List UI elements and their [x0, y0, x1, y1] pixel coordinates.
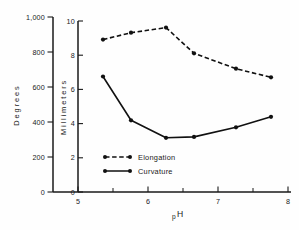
series-elongation: [101, 26, 273, 80]
left-tick-label-800: 800: [32, 48, 45, 57]
legend-marker: [128, 155, 132, 159]
left-axis-degrees: 1,000 800 600 400 200 0 Degrees: [12, 13, 53, 197]
data-point: [164, 136, 168, 140]
inner-axis-millimeters: 10 8 6 4 2 0 Millimeters: [59, 17, 83, 197]
x-axis-ph: 5 6 7 8 p H: [53, 187, 291, 222]
legend-entry-elongation: Elongation: [103, 153, 175, 162]
left-axis-ticks: [48, 17, 54, 192]
data-point: [234, 67, 238, 71]
inner-tick-label-6: 6: [71, 85, 75, 94]
chart-figure: 1,000 800 600 400 200 0 Degrees 10: [0, 0, 299, 230]
series-curvature-line: [103, 77, 271, 138]
x-tick-label-8: 8: [286, 197, 290, 206]
data-point: [192, 135, 196, 139]
x-tick-label-5: 5: [76, 197, 80, 206]
data-point: [101, 74, 105, 78]
x-axis-tick-labels: 5 6 7 8: [76, 197, 290, 206]
data-point: [192, 51, 196, 55]
data-point: [269, 115, 273, 119]
legend-entry-curvature: Curvature: [103, 167, 173, 176]
left-tick-label-400: 400: [32, 118, 45, 127]
data-point: [234, 125, 238, 129]
data-point: [101, 38, 105, 42]
left-tick-label-0: 0: [41, 188, 45, 197]
x-axis-ticks: [78, 187, 288, 193]
inner-axis-title-millimeters: Millimeters: [59, 79, 68, 135]
x-tick-label-6: 6: [146, 197, 150, 206]
inner-tick-label-8: 8: [71, 51, 75, 60]
x-tick-label-7: 7: [216, 197, 220, 206]
inner-tick-label-10: 10: [67, 17, 75, 26]
legend-marker: [103, 169, 107, 173]
data-point: [164, 26, 168, 30]
x-axis-title-ph: p H: [172, 209, 183, 221]
chart-plot-area: 1,000 800 600 400 200 0 Degrees 10: [0, 0, 299, 230]
series-elongation-line: [103, 28, 271, 78]
data-point: [269, 75, 273, 79]
inner-tick-label-2: 2: [71, 153, 75, 162]
legend-label-elongation: Elongation: [138, 153, 175, 162]
inner-tick-label-4: 4: [71, 119, 75, 128]
left-axis-title-degrees: Degrees: [12, 84, 21, 125]
legend-label-curvature: Curvature: [138, 167, 173, 176]
left-axis-tick-labels: 1,000 800 600 400 200 0: [26, 13, 45, 197]
data-point: [129, 118, 133, 122]
series-curvature: [101, 74, 273, 139]
chart-legend: Elongation Curvature: [103, 153, 175, 176]
left-tick-label-200: 200: [32, 153, 45, 162]
data-point: [129, 31, 133, 35]
legend-marker: [128, 169, 132, 173]
left-tick-label-600: 600: [32, 83, 45, 92]
x-axis-title-p: p: [172, 213, 176, 221]
legend-marker: [103, 155, 107, 159]
left-tick-label-1000: 1,000: [26, 13, 45, 22]
x-axis-title-h: H: [177, 209, 183, 219]
